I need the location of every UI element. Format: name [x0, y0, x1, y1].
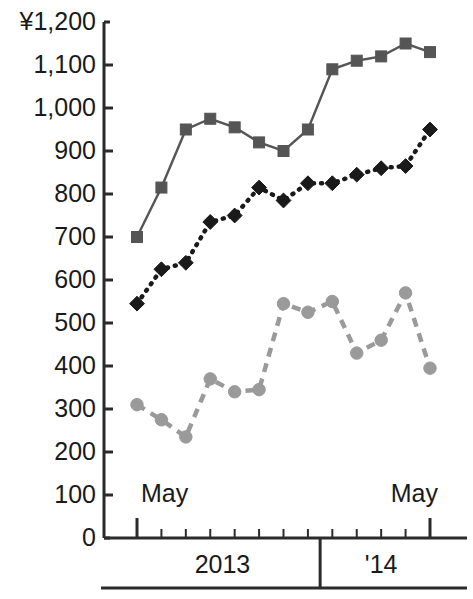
- data-point-diamond: [423, 122, 438, 137]
- y-axis-tick-labels: ¥1,2001,1001,000900800700600500400300200…: [19, 7, 96, 551]
- data-point-diamond: [178, 255, 193, 270]
- data-point-square: [376, 51, 387, 62]
- series-line-circle-series: [137, 293, 430, 437]
- data-point-diamond: [300, 176, 315, 191]
- y-tick-label: 500: [54, 308, 96, 336]
- data-point-circle: [180, 431, 192, 443]
- y-tick-label: 900: [54, 136, 96, 164]
- data-point-circle: [277, 297, 289, 309]
- data-point-square: [229, 122, 240, 133]
- data-point-diamond: [276, 193, 291, 208]
- data-point-diamond: [227, 208, 242, 223]
- data-point-diamond: [374, 161, 389, 176]
- data-point-square: [327, 64, 338, 75]
- data-point-circle: [302, 306, 314, 318]
- data-point-square: [180, 124, 191, 135]
- y-tick-label: 1,000: [33, 93, 96, 121]
- data-point-diamond: [325, 176, 340, 191]
- line-chart: ¥1,2001,1001,000900800700600500400300200…: [0, 0, 473, 599]
- data-point-square: [351, 55, 362, 66]
- data-point-square: [205, 113, 216, 124]
- data-point-square: [254, 137, 265, 148]
- y-tick-label: 200: [54, 437, 96, 465]
- y-tick-label: 1,100: [33, 50, 96, 78]
- period-label-1: '14: [365, 550, 398, 578]
- chart-container: ¥1,2001,1001,000900800700600500400300200…: [0, 0, 473, 599]
- period-label-0: 2013: [195, 550, 251, 578]
- data-point-diamond: [203, 215, 218, 230]
- data-point-circle: [204, 373, 216, 385]
- y-tick-label: 700: [54, 222, 96, 250]
- y-tick-label: 800: [54, 179, 96, 207]
- data-series: [130, 38, 438, 443]
- data-point-square: [132, 232, 143, 243]
- data-point-circle: [424, 362, 436, 374]
- data-point-circle: [351, 347, 363, 359]
- data-point-diamond: [154, 262, 169, 277]
- data-point-circle: [228, 386, 240, 398]
- data-point-circle: [253, 383, 265, 395]
- data-point-square: [302, 124, 313, 135]
- series-circle-series: [131, 287, 436, 444]
- data-point-square: [156, 182, 167, 193]
- data-point-diamond: [349, 167, 364, 182]
- data-point-circle: [131, 398, 143, 410]
- data-point-square: [425, 47, 436, 58]
- y-tick-label: 100: [54, 480, 96, 508]
- y-tick-label: 400: [54, 351, 96, 379]
- y-tick-label: 300: [54, 394, 96, 422]
- data-point-circle: [326, 295, 338, 307]
- y-tick-label: ¥1,200: [19, 7, 96, 35]
- data-point-circle: [399, 287, 411, 299]
- period-labels: 2013'14: [195, 538, 398, 588]
- x-axis-ticks: [137, 518, 430, 538]
- data-point-circle: [375, 334, 387, 346]
- x-axis-label-may-1: May: [391, 479, 439, 507]
- data-point-square: [278, 146, 289, 157]
- y-tick-label: 600: [54, 265, 96, 293]
- series-square-series: [132, 38, 436, 243]
- x-axis-label-may-0: May: [141, 479, 189, 507]
- y-tick-label: 0: [82, 523, 96, 551]
- x-axis-labels: MayMay: [141, 479, 438, 507]
- data-point-circle: [155, 414, 167, 426]
- data-point-square: [400, 38, 411, 49]
- data-point-diamond: [398, 159, 413, 174]
